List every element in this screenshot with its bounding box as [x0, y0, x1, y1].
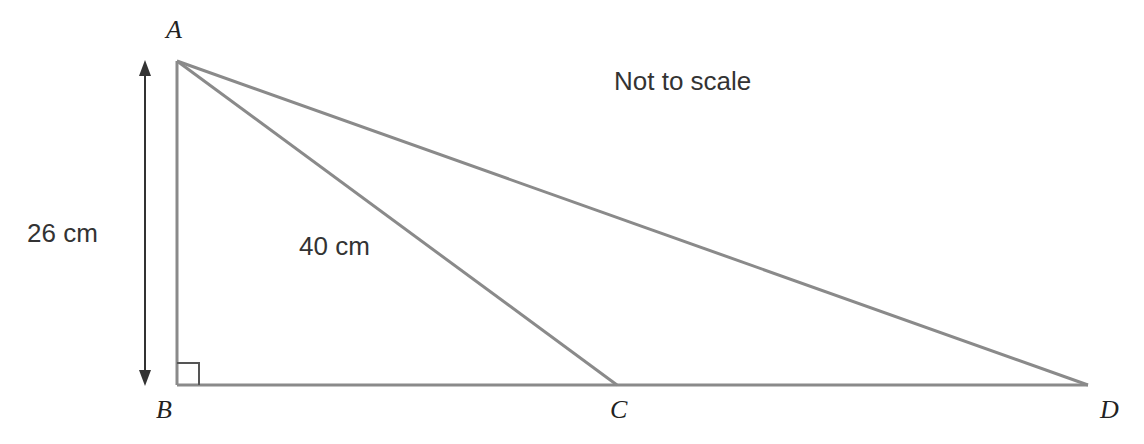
- vertex-label-c: C: [610, 395, 628, 424]
- height-dimension-arrow: [139, 60, 151, 386]
- vertex-label-b: B: [156, 395, 172, 424]
- measurement-ac: 40 cm: [299, 231, 370, 261]
- vertex-label-a: A: [164, 15, 182, 44]
- side-ad: [177, 61, 1088, 385]
- vertex-label-d: D: [1099, 395, 1119, 424]
- not-to-scale-note: Not to scale: [614, 66, 751, 96]
- measurement-ab: 26 cm: [27, 218, 98, 248]
- side-ac: [177, 61, 617, 385]
- triangle-diagram: A B C D 26 cm 40 cm Not to scale: [0, 0, 1144, 444]
- right-angle-marker: [177, 363, 199, 385]
